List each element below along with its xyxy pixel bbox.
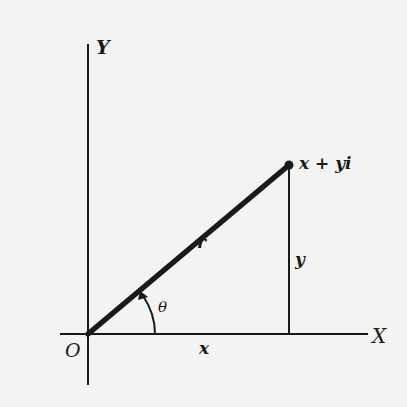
point-label: x + yi: [299, 155, 352, 172]
origin-label: O: [65, 341, 81, 360]
complex-plane-diagram: Y X O r θ x y x + yi: [0, 0, 407, 407]
y-axis-label: Y: [96, 38, 110, 57]
x-axis-label: X: [372, 326, 386, 346]
y-component-label: y: [295, 251, 305, 268]
angle-arc: [143, 296, 155, 334]
point-marker: [285, 161, 294, 170]
radius-vector: [88, 165, 289, 334]
angle-label: θ: [158, 300, 167, 315]
radius-label: r: [197, 234, 206, 251]
x-component-label: x: [199, 340, 209, 357]
